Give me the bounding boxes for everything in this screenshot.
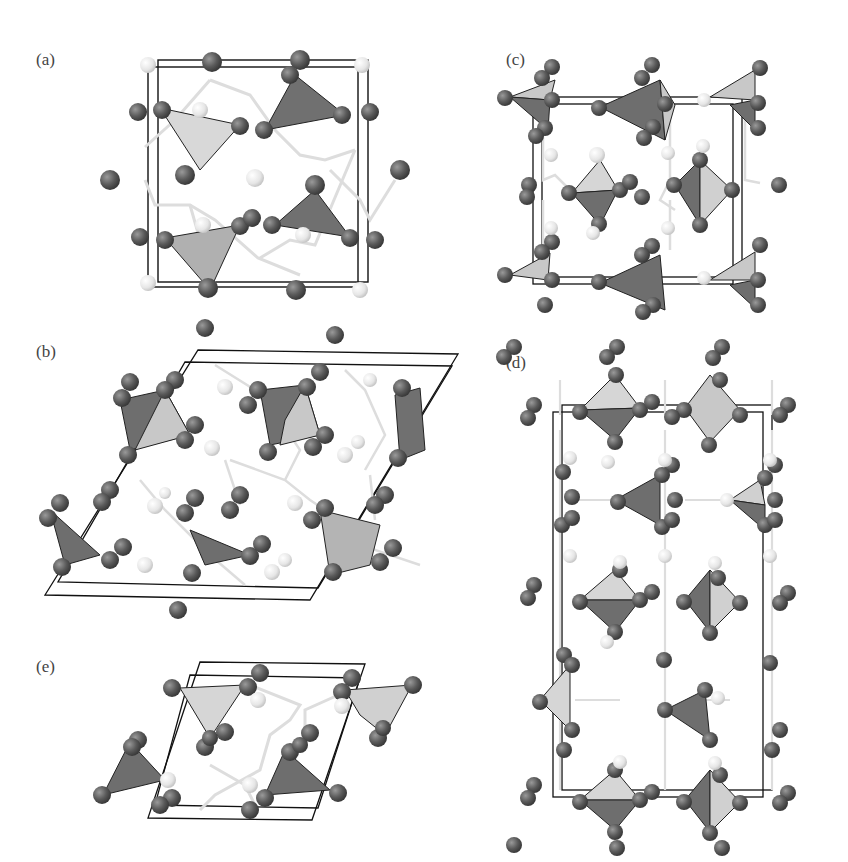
crystal-structure-e (0, 640, 500, 862)
polyhedron-light (180, 685, 245, 738)
panel-e: (e) (0, 640, 500, 862)
polyhedron-dark (265, 75, 345, 130)
polyhedron-light (710, 70, 755, 100)
panel-d: (d) (500, 320, 848, 862)
polyhedron-dark (190, 530, 250, 565)
crystal-structure-b (0, 310, 480, 610)
panel-c: (c) (500, 0, 848, 320)
polyhedron-dark (275, 190, 350, 237)
crystal-structure-c (500, 0, 848, 320)
polyhedron-dark (580, 408, 640, 440)
polyhedron-light (572, 160, 618, 193)
polyhedron-dark (580, 800, 640, 830)
panel-a: (a) (0, 0, 424, 310)
crystal-structure-a (0, 0, 424, 310)
crystal-structure-d (500, 320, 848, 862)
panel-b: (b) (0, 310, 480, 610)
polyhedron-light (685, 375, 740, 442)
polyhedron-light (580, 570, 640, 600)
polyhedron-dark (675, 160, 700, 225)
